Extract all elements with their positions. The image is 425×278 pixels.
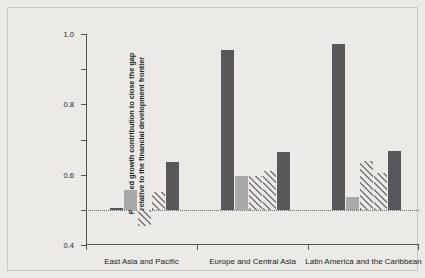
plot-area: 1.00.80.60.40.20-0.2 East Asia and Pacif… [86,34,419,245]
x-group-label: East Asia and Pacific [104,257,179,266]
y-tick-mark: 0.4 [81,140,86,141]
bar [277,152,290,210]
bar [332,44,345,210]
x-group-tick [308,245,309,250]
x-axis-line [86,244,419,245]
bar [374,173,387,210]
x-group-label: Europe and Central Asia [209,257,296,266]
x-group-tick [197,245,198,250]
chart-figure: Predicted growth contribution to close t… [0,0,425,278]
zero-reference-line [86,210,419,211]
y-tick-label: 0.6 [63,170,74,179]
y-tick-mark: 0.8 [81,69,86,70]
x-group-label: Latin America and the Caribbean [305,257,422,266]
figure-frame: Predicted growth contribution to close t… [7,7,418,271]
y-tick-label: 0.4 [63,241,74,250]
bar [346,197,359,210]
bar [388,151,401,210]
bar [138,210,151,226]
y-axis-title: Predicted growth contribution to close t… [24,26,64,241]
bar [221,50,234,210]
y-tick-mark: 1.0 [81,34,86,35]
y-axis-line [86,34,87,245]
y-tick-mark: 0 [81,210,86,211]
bar [152,192,165,210]
bar [166,162,179,209]
x-group-tick [86,245,87,250]
y-tick-label: 0.8 [63,100,74,109]
bar [360,161,373,210]
y-tick-mark: 0.2 [81,175,86,176]
x-group-tick [418,245,419,250]
bar [249,176,262,210]
bar [235,176,248,209]
bar [110,208,123,210]
bar [124,190,137,209]
y-tick-mark: 0.6 [81,104,86,105]
y-tick-label: 1.0 [63,30,74,39]
bar [263,171,276,210]
